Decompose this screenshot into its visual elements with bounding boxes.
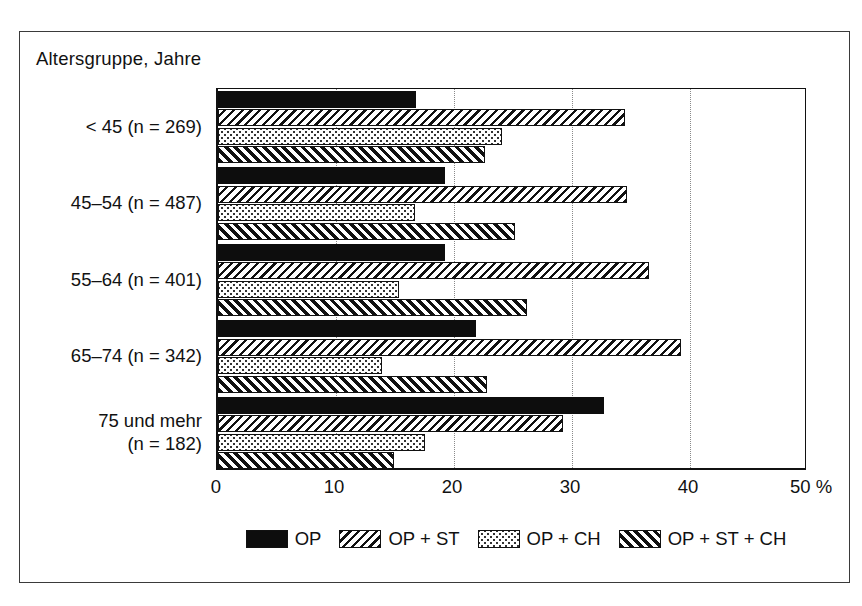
category-label: 55–64 (n = 401): [71, 268, 202, 291]
plot-area: [216, 88, 806, 470]
x-tick-label-10: 10: [324, 476, 345, 498]
bar-op-ch: [218, 128, 502, 145]
bar-op-ch: [218, 357, 382, 374]
bar-op: [218, 244, 445, 261]
bar-op-ch: [218, 204, 415, 221]
bar-op-st: [218, 339, 681, 356]
bar-op-st: [218, 109, 625, 126]
x-tick-label-30: 30: [560, 476, 581, 498]
legend-label: OP + ST + CH: [668, 528, 787, 550]
x-axis-tick-labels: 01020304050 %: [0, 476, 862, 506]
legend-label: OP: [295, 528, 322, 550]
bar-op-st: [218, 262, 649, 279]
bar-op-st-ch: [218, 299, 527, 316]
legend-label: OP + CH: [527, 528, 601, 550]
bar-op-st: [218, 415, 563, 432]
legend-item: OP + ST: [339, 528, 459, 550]
bar-op-st-ch: [218, 376, 487, 393]
bar-op: [218, 320, 476, 337]
x-tick-label-0: 0: [211, 476, 221, 498]
axis-caption: Altersgruppe, Jahre: [36, 48, 201, 70]
chart-figure: Altersgruppe, Jahre < 45 (n = 269)45–54 …: [0, 0, 862, 606]
forwardslash-hatch-swatch: [619, 530, 661, 548]
category-label: 75 und mehr (n = 182): [98, 409, 202, 455]
category-label: 45–54 (n = 487): [71, 191, 202, 214]
bar-group: [218, 165, 805, 241]
legend-item: OP: [246, 528, 322, 550]
x-tick-label-50: 50 %: [790, 476, 832, 498]
category-label: < 45 (n = 269): [86, 115, 202, 138]
category-label: 65–74 (n = 342): [71, 344, 202, 367]
backslash-hatch-swatch: [339, 530, 381, 548]
bar-group: [218, 242, 805, 318]
bar-group: [218, 395, 805, 471]
solid-black-swatch: [246, 530, 288, 548]
legend-item: OP + CH: [478, 528, 601, 550]
bar-op-st-ch: [218, 452, 394, 469]
bar-op: [218, 91, 416, 108]
bar-op-ch: [218, 434, 425, 451]
x-tick-label-20: 20: [442, 476, 463, 498]
category-axis-labels: < 45 (n = 269)45–54 (n = 487)55–64 (n = …: [0, 88, 202, 470]
bar-op-st-ch: [218, 146, 485, 163]
x-tick-label-40: 40: [678, 476, 699, 498]
bar-group: [218, 318, 805, 394]
bar-op: [218, 397, 604, 414]
legend-item: OP + ST + CH: [619, 528, 787, 550]
bar-op-ch: [218, 281, 399, 298]
dotted-stipple-swatch: [478, 530, 520, 548]
bar-op: [218, 167, 445, 184]
bar-op-st: [218, 186, 627, 203]
chart-legend: OPOP + STOP + CHOP + ST + CH: [216, 526, 816, 552]
legend-label: OP + ST: [388, 528, 459, 550]
bar-group: [218, 89, 805, 165]
bar-op-st-ch: [218, 223, 515, 240]
